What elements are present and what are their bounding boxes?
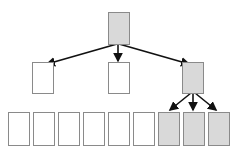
leaf-node	[9, 113, 30, 146]
level1-node	[33, 63, 54, 94]
arrow-edge	[47, 44, 117, 64]
leaf-node	[109, 113, 130, 146]
nodes-group	[9, 13, 230, 146]
arrow-edge	[170, 93, 191, 110]
leaf-node	[59, 113, 80, 146]
leaf-node	[134, 113, 155, 146]
tree-diagram	[0, 0, 235, 160]
leaf-node-shaded	[209, 113, 230, 146]
leaf-node-shaded	[184, 113, 205, 146]
arrow-edge	[119, 44, 189, 64]
level1-node-shaded	[183, 63, 204, 94]
root-node	[109, 13, 130, 45]
level1-node	[109, 63, 130, 94]
arrow-edge	[195, 93, 216, 110]
leaf-node-shaded	[159, 113, 180, 146]
leaf-node	[84, 113, 105, 146]
leaf-node	[34, 113, 55, 146]
